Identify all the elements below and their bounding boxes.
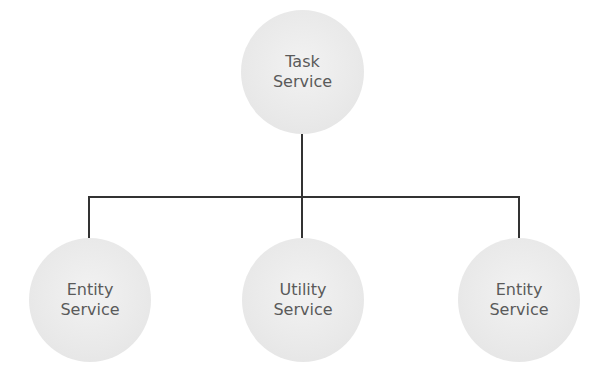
node-label-line1: Utility: [279, 280, 326, 300]
node-task-service: Task Service: [241, 10, 364, 134]
node-label-line1: Task: [285, 52, 320, 72]
node-label-line2: Service: [489, 300, 548, 320]
connector-root-down: [301, 134, 303, 198]
connector-horizontal: [88, 196, 520, 198]
service-hierarchy-diagram: Task Service Entity Service Utility Serv…: [0, 0, 597, 375]
connector-middle-down: [301, 196, 303, 238]
node-label-line2: Service: [60, 300, 119, 320]
connector-left-down: [88, 196, 90, 238]
connector-right-down: [518, 196, 520, 238]
node-entity-service-right: Entity Service: [458, 238, 580, 362]
node-label-line2: Service: [273, 300, 332, 320]
node-label-line1: Entity: [496, 280, 543, 300]
node-utility-service: Utility Service: [242, 238, 364, 362]
node-label-line1: Entity: [67, 280, 114, 300]
node-label-line2: Service: [273, 72, 332, 92]
node-entity-service-left: Entity Service: [29, 238, 151, 362]
